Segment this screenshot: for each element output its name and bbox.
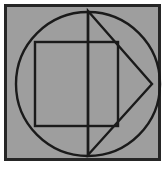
figure-container: Geometric construction: circle with insc… [0,0,167,170]
geometric-figure-svg [0,0,167,170]
